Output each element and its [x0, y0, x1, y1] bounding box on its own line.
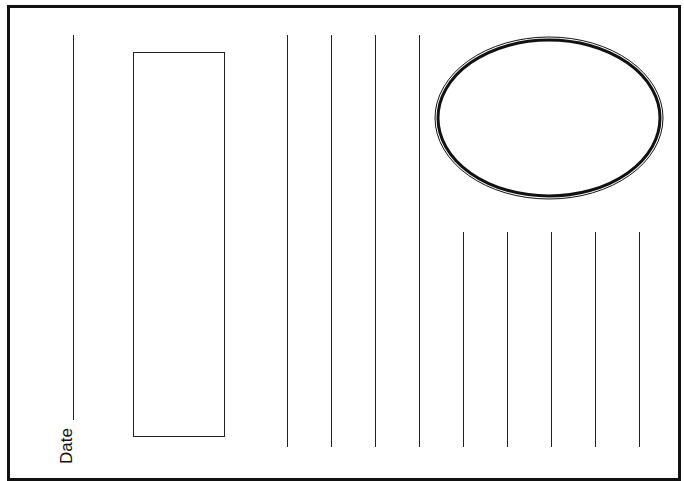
date-label: Date [57, 428, 77, 464]
writing-line-short[interactable] [595, 232, 596, 447]
oval-frame[interactable] [430, 34, 670, 204]
writing-line-tall[interactable] [287, 35, 288, 447]
writing-line-short[interactable] [551, 232, 552, 447]
date-line[interactable] [73, 35, 74, 420]
writing-line-short[interactable] [507, 232, 508, 447]
writing-line-tall[interactable] [331, 35, 332, 447]
writing-line-short[interactable] [639, 232, 640, 447]
writing-line-tall[interactable] [419, 35, 420, 447]
writing-line-short[interactable] [463, 232, 464, 447]
picture-box[interactable] [133, 52, 225, 437]
writing-line-tall[interactable] [375, 35, 376, 447]
